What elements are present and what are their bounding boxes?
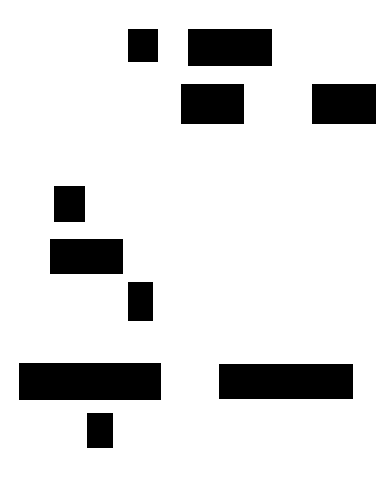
composition-canvas xyxy=(0,0,392,481)
block-bottom-right-long-bar xyxy=(219,364,353,399)
block-top-wide-bar xyxy=(188,29,272,66)
block-middle-left-tall xyxy=(54,186,85,222)
block-upper-right xyxy=(312,84,376,124)
block-middle-left-wide xyxy=(50,239,123,274)
block-middle-center-narrow xyxy=(128,282,153,321)
block-bottom-left-long-bar xyxy=(19,363,161,400)
block-upper-center xyxy=(181,84,244,124)
block-top-small-square xyxy=(128,29,158,62)
block-bottom-small-vertical xyxy=(87,413,113,448)
